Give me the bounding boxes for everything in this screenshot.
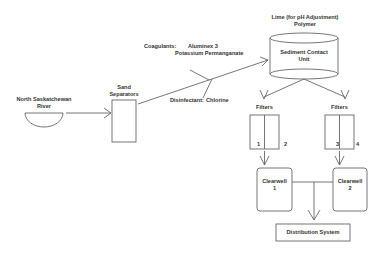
- coagulant-pointer: [190, 70, 209, 80]
- distribution-system-label: Distribution System: [276, 229, 350, 236]
- filters-right-label: Filters: [325, 104, 354, 111]
- filters-left-label: Filters: [250, 104, 279, 111]
- filter-number-4: 4: [356, 141, 359, 148]
- lime-polymer-label: Lime (for pH Adjustment) Polymer: [260, 14, 350, 28]
- diagram-shapes: [0, 0, 390, 260]
- filter-number-3: 3: [336, 141, 339, 148]
- filter-number-2: 2: [284, 141, 287, 148]
- sand-separator-label: Sand Separators: [104, 84, 144, 98]
- coagulants-label: Coagulants:: [144, 43, 176, 50]
- clearwell-2-label: Clearwell 2: [333, 178, 367, 192]
- filter-number-1: 1: [257, 141, 260, 148]
- coagulant-permanganate: Potassium Permanganate: [175, 50, 243, 57]
- process-flow-diagram: North Saskatchewan River Sand Separators…: [0, 0, 390, 260]
- river-label: North Saskatchewan River: [2, 96, 86, 110]
- clearwell-1-label: Clearwell 1: [257, 178, 292, 192]
- river-shape: [25, 113, 63, 127]
- sediment-unit-label: Sediment Contact Unit: [274, 49, 334, 63]
- sand-separator-box: [112, 100, 136, 142]
- disinfectant-label: Disinfectant:: [170, 97, 204, 104]
- coagulant-aluminex: Aluminex 3: [188, 43, 218, 50]
- disinfectant-chlorine: Chlorine: [206, 97, 229, 104]
- sediment-unit-base: [270, 69, 338, 79]
